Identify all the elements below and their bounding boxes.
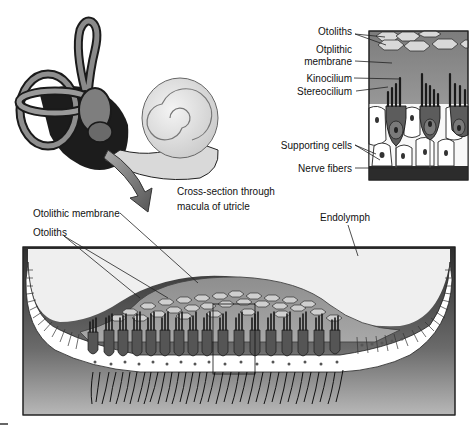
macula-cross-section (23, 247, 455, 415)
inset-label-otolithic-membrane-2: membrane (282, 56, 352, 68)
hair-cell-detail-inset (369, 31, 468, 180)
label-otolithic-membrane: Otolithic membrane (33, 208, 120, 220)
caption-line-2: macula of utricle (177, 201, 250, 213)
inset-label-stereocilium: Stereocilium (282, 86, 352, 98)
inset-label-nerve-fibers: Nerve fibers (262, 163, 352, 175)
inset-label-otoliths: Otoliths (282, 26, 352, 38)
caption-line-1: Cross-section through (177, 186, 275, 198)
inset-label-supporting-cells: Supporting cells (262, 140, 352, 152)
page-mark (0, 423, 8, 425)
inset-label-kinocilium: Kinocilium (282, 73, 352, 85)
inset-label-otolithic-membrane-1: Otplithic (282, 44, 352, 56)
label-otoliths: Otoliths (33, 227, 67, 239)
inner-ear-illustration (19, 21, 218, 180)
label-endolymph: Endolymph (320, 212, 370, 224)
